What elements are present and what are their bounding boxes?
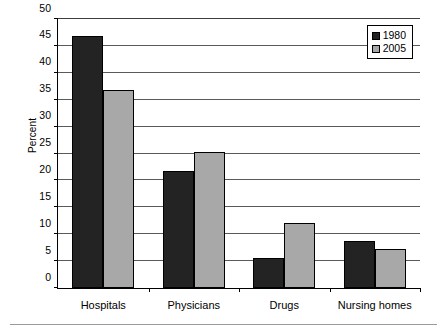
bar-2005-physicians [194, 152, 225, 288]
x-tick-label-drugs: Drugs [270, 299, 299, 311]
plot-area: 05101520253035404550 HospitalsPhysicians… [57, 19, 420, 289]
y-tick-label: 5 [45, 244, 51, 256]
y-tick-label: 50 [39, 2, 51, 14]
legend-swatch-icon-2005 [372, 45, 380, 53]
y-tick-label: 10 [39, 217, 51, 229]
y-tick-label: 25 [39, 136, 51, 148]
y-axis-title: Percent [27, 106, 38, 166]
bar-group [344, 19, 406, 288]
legend-item-2005: 2005 [372, 42, 406, 55]
bar-1980-drugs [253, 258, 284, 288]
y-tick-label: 20 [39, 163, 51, 175]
legend-label-2005: 2005 [383, 43, 406, 54]
chart-legend: 1980 2005 [367, 25, 413, 59]
y-tick-label: 30 [39, 109, 51, 121]
footer-divider [10, 324, 437, 325]
y-tick-label: 0 [45, 271, 51, 283]
x-tick-mark [420, 288, 421, 292]
x-tick-label-physicians: Physicians [167, 299, 220, 311]
bar-groups [58, 19, 420, 288]
bar-2005-nursing-homes [375, 249, 406, 288]
x-tick-label-hospitals: Hospitals [81, 299, 126, 311]
x-tick-mark [149, 288, 150, 292]
y-tick-label: 35 [39, 82, 51, 94]
y-tick-label: 15 [39, 190, 51, 202]
bar-group [163, 19, 225, 288]
bar-1980-physicians [163, 171, 194, 288]
bar-chart-figure: Percent 05101520253035404550 HospitalsPh… [0, 0, 447, 333]
legend-swatch-icon-1980 [372, 32, 380, 40]
legend-label-1980: 1980 [383, 30, 406, 41]
x-tick-mark [330, 288, 331, 292]
bar-group [72, 19, 134, 288]
legend-item-1980: 1980 [372, 29, 406, 42]
bar-group [253, 19, 315, 288]
bar-2005-hospitals [103, 90, 134, 288]
x-tick-label-nursing-homes: Nursing homes [338, 299, 412, 311]
bar-2005-drugs [284, 223, 315, 288]
bar-1980-hospitals [72, 36, 103, 288]
bar-1980-nursing-homes [344, 241, 375, 288]
y-tick-label: 45 [39, 28, 51, 40]
x-tick-mark [239, 288, 240, 292]
y-tick-label: 40 [39, 55, 51, 67]
